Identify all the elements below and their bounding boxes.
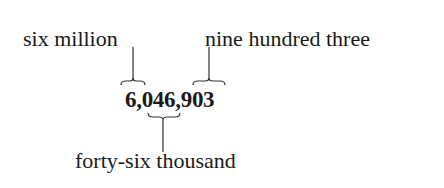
brace-millions — [121, 78, 145, 85]
connector-lines — [0, 0, 444, 188]
brace-thousands — [148, 113, 180, 120]
brace-ones — [193, 78, 225, 85]
